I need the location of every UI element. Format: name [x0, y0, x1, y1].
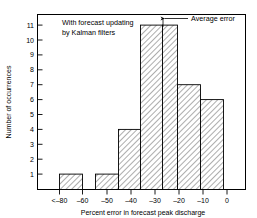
x-tick-label: –20 [173, 197, 185, 204]
x-axis-title: Percent error in forecast peak discharge [81, 209, 206, 217]
bar-bin-7 [201, 100, 224, 190]
y-tick-label: 4 [30, 126, 34, 133]
y-tick-label: 5 [30, 111, 34, 118]
y-tick-label: 3 [30, 141, 34, 148]
method-note-line1: With forecast updating [62, 18, 134, 27]
x-tick-label: <–80 [52, 197, 68, 204]
x-tick-label: –60 [77, 197, 89, 204]
histogram-bars [60, 25, 224, 189]
x-tick-label: –30 [149, 197, 161, 204]
x-tick-label: –40 [125, 197, 137, 204]
bar-bin-2 [96, 174, 119, 189]
method-note: With forecast updating by Kalman filters [62, 18, 134, 37]
bar-bin-6 [178, 85, 201, 190]
y-tick-label: 8 [30, 66, 34, 73]
x-axis-tick-labels: <–80 –60 –50 –40 –30 –20 –10 0 [52, 197, 229, 204]
bar-bin-4 [141, 25, 163, 189]
average-error-label: Average error [191, 14, 235, 23]
x-axis-ticks [60, 190, 228, 195]
y-tick-label: 6 [30, 96, 34, 103]
x-tick-label: 0 [225, 197, 229, 204]
y-axis-tick-labels: 1 2 3 4 5 6 7 8 9 10 11 [26, 22, 34, 178]
histogram-figure: 1 2 3 4 5 6 7 8 9 10 11 Number of occurr… [0, 0, 257, 218]
y-axis-title: Number of occurrences [5, 65, 12, 138]
bar-bin-3 [119, 129, 141, 189]
y-axis-ticks [38, 25, 43, 174]
y-tick-label: 7 [30, 81, 34, 88]
bar-bin-5 [163, 25, 178, 189]
y-tick-label: 10 [26, 37, 34, 44]
x-tick-label: –10 [197, 197, 209, 204]
y-tick-label: 1 [30, 171, 34, 178]
x-tick-label: –50 [101, 197, 113, 204]
method-note-line2: by Kalman filters [62, 28, 116, 37]
y-tick-label: 9 [30, 51, 34, 58]
y-tick-label: 11 [27, 22, 34, 29]
chart-canvas: 1 2 3 4 5 6 7 8 9 10 11 Number of occurr… [0, 0, 257, 218]
bar-bin-1 [60, 174, 83, 189]
y-tick-label: 2 [30, 156, 34, 163]
